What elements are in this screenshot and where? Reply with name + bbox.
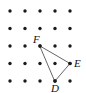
lattice-dot [53, 44, 56, 47]
vertex-label-d: D [50, 82, 59, 93]
figure-canvas: FED [0, 0, 86, 93]
lattice-dot [53, 27, 56, 30]
lattice-dot [8, 9, 11, 12]
lattice-dot [68, 44, 71, 47]
lattice-dot [23, 27, 26, 30]
lattice-dot [8, 62, 11, 65]
lattice-dot [38, 62, 41, 65]
lattice-dot [38, 27, 41, 30]
lattice-dot [68, 9, 71, 12]
vertex-label-f: F [32, 33, 40, 45]
vertex-dot-e [68, 62, 71, 65]
lattice-dot [8, 44, 11, 47]
lattice-dot [53, 9, 56, 12]
vertex-label-e: E [73, 57, 81, 69]
lattice-dot [68, 27, 71, 30]
lattice-dot [38, 79, 41, 82]
lattice-figure: FED [0, 0, 86, 93]
lattice-dot [23, 62, 26, 65]
lattice-dot [38, 9, 41, 12]
vertex-dot-f [38, 44, 41, 47]
lattice-dot [23, 44, 26, 47]
lattice-dot [23, 9, 26, 12]
lattice-dot [68, 79, 71, 82]
lattice-dot [8, 79, 11, 82]
lattice-dot [8, 27, 11, 30]
vertex-dot-d [53, 79, 56, 82]
lattice-dot [53, 62, 56, 65]
lattice-dot [23, 79, 26, 82]
figure-background [0, 0, 86, 93]
